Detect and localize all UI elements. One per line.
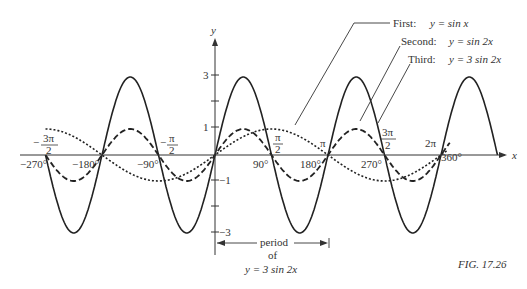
- radian-neg3pi2-den: 2: [46, 144, 52, 156]
- x-tick-neg90: −90°: [137, 158, 159, 170]
- x-radian-ticks: − 3π 2 − π 2 π 2 π 3π 2 2π: [33, 126, 437, 156]
- radian-2pi: 2π: [425, 137, 437, 149]
- x-tick-180: 180°: [300, 158, 321, 170]
- legend: First: y = sin x Second: y = sin 2x Thir…: [295, 17, 501, 125]
- legend-second-eq: y = sin 2x: [448, 35, 493, 47]
- radian-3pi2-num: 3π: [382, 126, 394, 138]
- legend-first-eq: y = sin x: [429, 17, 468, 29]
- x-tick-90: 90°: [253, 158, 268, 170]
- neg-sign: −: [160, 136, 166, 148]
- radian-pi2-num: π: [275, 131, 281, 143]
- y-axis-label: y: [210, 24, 216, 36]
- x-tick-360: 360°: [441, 151, 462, 163]
- radian-negpi2-num: π: [169, 132, 175, 144]
- x-tick-neg270: −270°: [20, 158, 47, 170]
- legend-second-name: Second:: [401, 35, 436, 47]
- x-axis-label: x: [511, 149, 517, 161]
- period-label-line3: y = 3 sin 2x: [244, 263, 297, 275]
- radian-pi: π: [320, 137, 326, 149]
- y-tick-neg3: −3: [219, 226, 231, 238]
- period-annotation: period of y = 3 sin 2x: [217, 236, 329, 275]
- x-axis-arrow-icon: [499, 152, 507, 158]
- y-tick-3: 3: [203, 69, 209, 81]
- radian-pi2-den: 2: [275, 143, 281, 155]
- neg-sign: −: [33, 136, 39, 148]
- y-tick-neg1: −1: [219, 174, 231, 186]
- radian-neg3pi2-num: 3π: [43, 132, 55, 144]
- radian-3pi2-den: 2: [385, 139, 391, 151]
- x-tick-270: 270°: [361, 158, 382, 170]
- arrow-left-icon: [217, 240, 225, 246]
- radian-negpi2-den: 2: [169, 144, 175, 156]
- legend-third-name: Third:: [408, 53, 436, 65]
- figure-label: FIG. 17.26: [457, 258, 507, 270]
- x-degree-ticks: −270° −180° −90° 90° 180° 270° 360°: [20, 151, 462, 170]
- chart-canvas: x y 3 1 −1 −3 −270° −180° −90° 90° 180° …: [0, 0, 527, 289]
- legend-third-eq: y = 3 sin 2x: [448, 53, 501, 65]
- arrow-right-icon: [320, 240, 328, 246]
- y-axis-arrow-icon: [212, 38, 218, 46]
- legend-first-name: First:: [393, 17, 416, 29]
- period-label-line1: period: [260, 236, 289, 248]
- period-label-line2: of: [268, 249, 278, 261]
- y-tick-1: 1: [203, 121, 209, 133]
- x-tick-neg180: −180°: [72, 158, 99, 170]
